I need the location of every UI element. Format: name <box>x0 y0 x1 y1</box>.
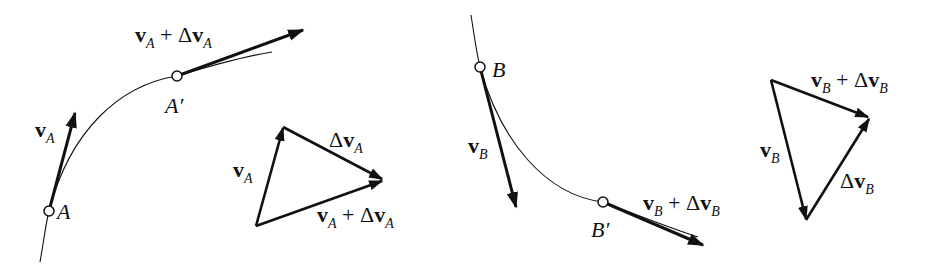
point-a-prime-marker <box>172 71 182 81</box>
label-tri-dv-a: ΔvA <box>329 127 363 156</box>
label-point-b-prime: B′ <box>591 217 610 242</box>
label-tri-sum-b: vB + ΔvB <box>811 67 888 96</box>
label-tri-dv-b: ΔvB <box>840 168 874 197</box>
velocity-diagram: A A′ vA vA + ΔvA vA ΔvA vA + ΔvA B B′ <box>0 0 941 275</box>
triangle-a-v-arrow <box>256 128 283 226</box>
triangle-b-v-arrow <box>771 80 806 219</box>
label-point-a-prime: A′ <box>163 93 184 118</box>
vector-v-a-arrow <box>49 113 75 211</box>
label-tri-sum-a: vA + ΔvA <box>317 202 394 231</box>
label-point-a: A <box>55 199 71 224</box>
label-v-b: vB <box>468 133 488 162</box>
point-b-prime-marker <box>598 197 608 207</box>
panel-b-triangle: vB + ΔvB vB ΔvB <box>760 67 888 220</box>
label-tri-v-b: vB <box>760 137 780 166</box>
label-point-b: B <box>492 57 505 82</box>
label-v-a: vA <box>35 117 55 146</box>
label-v-b-plus-dv: vB + ΔvB <box>643 190 720 219</box>
label-tri-v-a: vA <box>233 157 253 186</box>
panel-a-triangle: vA ΔvA vA + ΔvA <box>233 127 394 231</box>
panel-a-path: A A′ vA vA + ΔvA <box>35 22 303 262</box>
panel-b-path: B B′ vB vB + ΔvB <box>468 15 720 245</box>
label-v-a-plus-dv: vA + ΔvA <box>135 22 212 51</box>
point-b-marker <box>475 62 485 72</box>
point-a-marker <box>44 206 54 216</box>
